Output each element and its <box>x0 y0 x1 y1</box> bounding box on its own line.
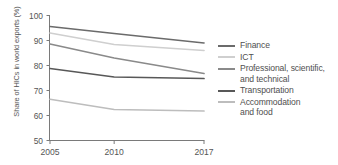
x-axis-tick-label: 2017 <box>194 147 213 157</box>
legend-item[interactable]: Transportation <box>218 85 338 96</box>
x-axis-tick-label: 2010 <box>105 147 124 157</box>
legend-item-label: Accommodation and food <box>240 97 300 118</box>
series-line <box>50 27 204 44</box>
legend-item-label: Transportation <box>240 85 294 96</box>
legend-item[interactable]: ICT <box>218 52 338 63</box>
x-axis-tick-label: 2005 <box>40 147 59 157</box>
legend-swatch-icon <box>218 90 235 92</box>
y-axis-tick-label: 80 <box>34 61 44 71</box>
legend-swatch-icon <box>218 56 235 58</box>
y-axis-tick-label: 60 <box>34 111 44 121</box>
series-line <box>50 99 204 111</box>
legend-swatch-icon <box>218 68 235 70</box>
x-axis-ticks: 200520102017 <box>40 141 213 157</box>
legend-swatch-icon <box>218 101 235 103</box>
legend-item-label: ICT <box>240 52 254 63</box>
legend-item-label: Finance <box>240 40 270 51</box>
legend-item[interactable]: Finance <box>218 40 338 51</box>
legend-item-label: Professional, scientific, and technical <box>240 63 325 84</box>
legend-item[interactable]: Accommodation and food <box>218 97 338 118</box>
data-series-lines <box>50 27 204 112</box>
legend-item[interactable]: Professional, scientific, and technical <box>218 63 338 84</box>
y-axis-tick-label: 50 <box>34 136 44 146</box>
y-axis-ticks: 1009080706050 <box>29 11 50 146</box>
y-axis-tick-label: 90 <box>34 36 44 46</box>
y-axis-tick-label: 70 <box>34 86 44 96</box>
y-axis-tick-label: 100 <box>29 11 43 21</box>
legend: FinanceICTProfessional, scientific, and … <box>218 40 338 119</box>
legend-swatch-icon <box>218 45 235 47</box>
line-chart: Share of HICs in world exports (%) 10090… <box>0 0 338 165</box>
